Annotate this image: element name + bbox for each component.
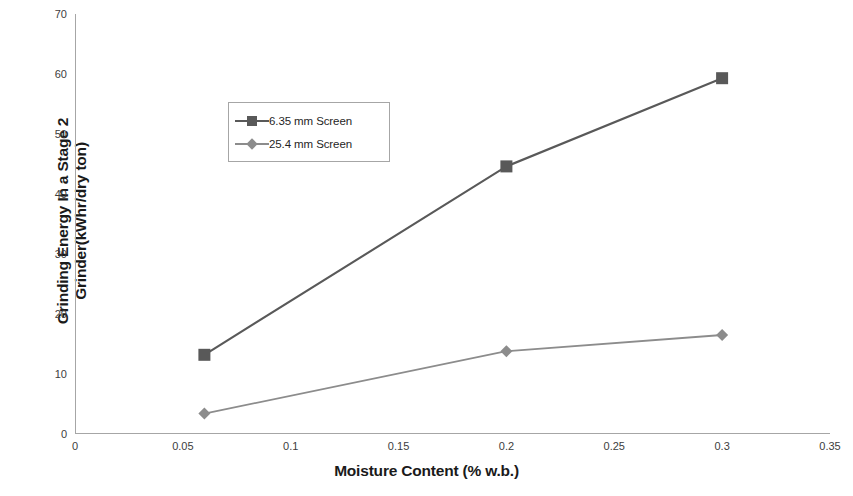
- legend-marker-diamond-icon: [235, 137, 269, 151]
- x-axis-title: Moisture Content (% w.b.): [0, 462, 853, 480]
- legend-item-series-2: 25.4 mm Screen: [235, 132, 389, 155]
- y-axis-tick-label: 60: [33, 68, 67, 80]
- x-axis-tick-label: 0.3: [697, 440, 747, 452]
- y-axis-tick-label: 50: [33, 128, 67, 140]
- x-axis-tick-label: 0.15: [374, 440, 424, 452]
- data-point-marker: [198, 349, 210, 361]
- x-axis-tick-label: 0: [50, 440, 100, 452]
- legend: 6.35 mm Screen 25.4 mm Screen: [228, 102, 390, 162]
- y-axis-tick-label: 30: [33, 248, 67, 260]
- y-axis-tick-label: 10: [33, 368, 67, 380]
- x-axis-tick-label: 0.1: [266, 440, 316, 452]
- data-point-marker: [500, 160, 512, 172]
- y-axis-tick-label: 20: [33, 308, 67, 320]
- legend-item-series-1: 6.35 mm Screen: [235, 109, 389, 132]
- y-axis-title-line-1: Grinding Energy In a Stage 2: [54, 118, 72, 324]
- chart-container: Grinding Energy In a Stage 2 Grinder(kWh…: [0, 0, 853, 496]
- data-point-marker: [716, 329, 728, 341]
- x-axis-tick-label: 0.35: [805, 440, 853, 452]
- y-axis-tick-label: 70: [33, 8, 67, 20]
- data-point-marker: [198, 408, 210, 420]
- legend-label-series-2: 25.4 mm Screen: [269, 138, 352, 150]
- x-axis-tick-label: 0.05: [158, 440, 208, 452]
- y-axis-tick-label: 0: [33, 428, 67, 440]
- x-axis-tick-label: 0.25: [589, 440, 639, 452]
- y-axis-tick-label: 40: [33, 188, 67, 200]
- legend-marker-square-icon: [235, 114, 269, 128]
- plot-area: [75, 14, 830, 434]
- data-point-marker: [716, 72, 728, 84]
- plot-svg: [75, 14, 830, 434]
- x-axis-tick-label: 0.2: [481, 440, 531, 452]
- legend-label-series-1: 6.35 mm Screen: [269, 115, 352, 127]
- data-point-marker: [500, 345, 512, 357]
- series-line-2: [204, 335, 722, 414]
